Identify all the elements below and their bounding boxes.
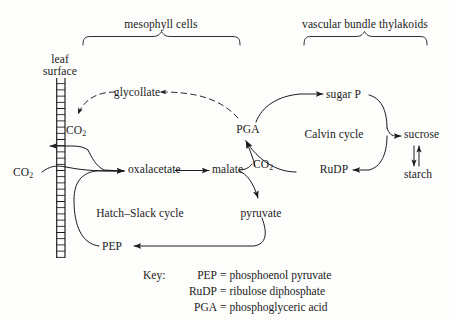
key-abbr: PEP bbox=[177, 268, 217, 284]
node-pyruvate: pyruvate bbox=[240, 207, 281, 220]
arrow-calvin-branch-to-rudp bbox=[353, 136, 387, 170]
arrow-glycollate-pathway bbox=[160, 92, 238, 118]
key-expansion: ribulose diphosphate bbox=[230, 285, 326, 297]
node-glycollate: glycollate bbox=[114, 86, 160, 99]
section-label-vascular-bundle: vascular bundle thylakoids bbox=[302, 18, 428, 31]
leaf-surface-label-line1: leaf bbox=[51, 53, 69, 66]
key-legend: Key:PEP=phosphoenol pyruvate RuDP=ribulo… bbox=[143, 268, 331, 316]
node-co2-released: CO2 bbox=[253, 158, 273, 171]
node-pga: PGA bbox=[236, 123, 259, 136]
label-calvin-cycle: Calvin cycle bbox=[305, 128, 364, 141]
arrow-sugar-p-to-sucrose-branch bbox=[369, 95, 387, 128]
key-expansion: phosphoenol pyruvate bbox=[230, 269, 332, 281]
arrow-co2-out-of-leaf bbox=[50, 146, 88, 150]
node-co2-external: CO2 bbox=[13, 166, 33, 179]
section-label-mesophyll: mesophyll cells bbox=[124, 18, 197, 31]
node-co2-internal-text: CO bbox=[66, 124, 82, 136]
brace-vascular bbox=[304, 32, 427, 46]
key-equals: = bbox=[217, 285, 230, 297]
key-heading: Key: bbox=[143, 268, 177, 284]
node-co2-external-subscript: 2 bbox=[29, 171, 33, 180]
node-co2-released-text: CO bbox=[253, 158, 269, 170]
leaf-surface-membrane bbox=[57, 78, 66, 258]
key-expansion: phosphoglyceric acid bbox=[230, 301, 328, 313]
node-sucrose: sucrose bbox=[404, 128, 439, 141]
node-malate: malate bbox=[212, 163, 243, 176]
leaf-surface-label-line2: surface bbox=[43, 65, 77, 78]
node-oxaloacetate: oxalacetate bbox=[128, 163, 181, 176]
node-co2-external-text: CO bbox=[13, 166, 29, 178]
label-hatch-slack-cycle: Hatch–Slack cycle bbox=[96, 207, 184, 220]
node-co2-released-subscript: 2 bbox=[269, 163, 273, 172]
arrow-calvin-to-sucrose bbox=[387, 128, 401, 136]
node-co2-internal: CO2 bbox=[66, 124, 86, 137]
arrow-co2-internal-to-oxaloacetate bbox=[88, 150, 124, 171]
node-co2-internal-subscript: 2 bbox=[82, 129, 86, 138]
key-equals: = bbox=[217, 269, 230, 281]
key-abbr: RuDP bbox=[177, 284, 217, 300]
arrow-glycollate-to-co2 bbox=[78, 92, 115, 114]
arrow-pga-to-sugar-p bbox=[256, 94, 323, 122]
node-rudp: RuDP bbox=[320, 163, 349, 176]
arrow-pyruvate-to-pep bbox=[134, 218, 265, 246]
node-starch: starch bbox=[404, 168, 432, 181]
node-sugar-p: sugar P bbox=[326, 88, 361, 101]
key-row: PGA=phosphoglyceric acid bbox=[143, 300, 331, 316]
key-row: Key:PEP=phosphoenol pyruvate bbox=[143, 268, 331, 284]
key-equals: = bbox=[217, 301, 230, 313]
key-row: RuDP=ribulose diphosphate bbox=[143, 284, 331, 300]
key-abbr: PGA bbox=[177, 300, 217, 316]
brace-mesophyll bbox=[83, 32, 240, 46]
c4-photosynthesis-diagram: mesophyll cells vascular bundle thylakoi… bbox=[0, 0, 455, 320]
node-pep: PEP bbox=[102, 240, 122, 253]
